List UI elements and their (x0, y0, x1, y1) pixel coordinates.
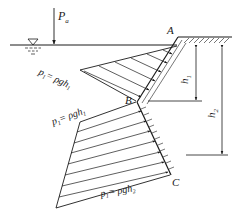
water-level-icon (25, 39, 41, 54)
h2-label: h2 (205, 109, 220, 119)
wall-ab (137, 37, 186, 104)
atmospheric-pressure-label: Pa (57, 9, 69, 25)
point-b-label: B (125, 94, 132, 106)
pressure-label-c: p1= ρgh2 (98, 182, 136, 200)
pressure-label-lower-b: p1= ρgh1 (49, 105, 87, 129)
pressure-distribution-ab (80, 46, 177, 101)
h1-label: h1 (178, 75, 193, 84)
point-a-label: A (166, 24, 174, 36)
hydrostatic-pressure-diagram: Pa (0, 0, 244, 223)
ground-surface (178, 37, 232, 43)
h2-dimension (186, 48, 228, 155)
h1-dimension (148, 48, 202, 101)
pressure-label-upper: p1= ρgh1 (36, 65, 74, 91)
point-c-label: C (172, 176, 180, 188)
